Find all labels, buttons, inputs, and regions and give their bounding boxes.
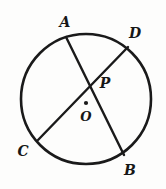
- label-point-b: B: [124, 163, 136, 177]
- label-point-c: C: [17, 144, 28, 158]
- geometry-canvas: [0, 0, 166, 189]
- chord-cd-line: [38, 47, 128, 140]
- chord-ab-line: [66, 37, 124, 155]
- label-point-o: O: [80, 110, 91, 123]
- label-point-d: D: [129, 26, 141, 40]
- label-point-p: P: [100, 76, 111, 90]
- geometry-figure: A D P O C B: [0, 0, 166, 189]
- circle-outline: [21, 34, 151, 164]
- center-point-dot: [84, 101, 88, 105]
- label-point-a: A: [60, 15, 71, 29]
